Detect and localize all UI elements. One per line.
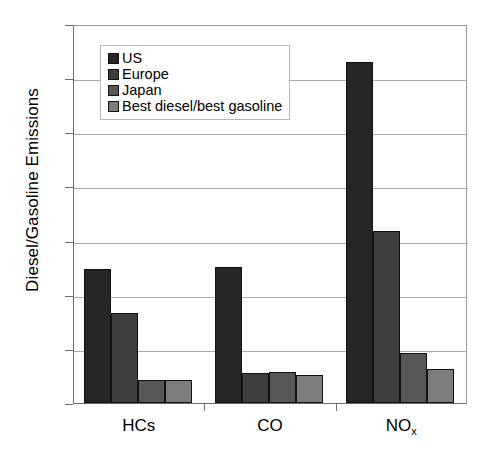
bar: [346, 62, 373, 403]
legend-item-label: Japan: [122, 83, 162, 98]
bar: [215, 267, 242, 403]
bar: [242, 373, 269, 403]
x-category-label: NOx: [336, 416, 467, 437]
x-category-label: HCs: [73, 416, 204, 436]
x-category-label: CO: [204, 416, 335, 436]
y-tick-mark: [65, 242, 73, 243]
legend-swatch-icon: [108, 85, 119, 96]
legend-item: Japan: [108, 82, 282, 98]
y-tick-mark: [65, 133, 73, 134]
legend-item-label: Europe: [122, 67, 169, 82]
bar: [269, 372, 296, 403]
y-tick-mark: [65, 350, 73, 351]
bar: [138, 380, 165, 403]
legend-swatch-icon: [108, 69, 119, 80]
legend-item-label: Best diesel/best gasoline: [122, 99, 282, 114]
bar: [111, 313, 138, 403]
x-tick-mark: [336, 404, 337, 411]
gridline: [74, 297, 466, 298]
y-tick-mark: [65, 79, 73, 80]
y-tick-mark: [65, 404, 73, 405]
legend-item: Best diesel/best gasoline: [108, 98, 282, 114]
bar: [427, 369, 454, 403]
gridline: [74, 134, 466, 135]
gridline: [74, 243, 466, 244]
y-tick-mark: [65, 25, 73, 26]
legend-swatch-icon: [108, 53, 119, 64]
gridline: [74, 188, 466, 189]
x-tick-mark: [204, 404, 205, 411]
legend: USEuropeJapanBest diesel/best gasoline: [100, 45, 290, 120]
bar: [373, 231, 400, 403]
bar-chart: Diesel/Gasoline Emissions 01234567 HCsCO…: [0, 0, 492, 456]
bar: [84, 269, 111, 403]
legend-item: US: [108, 50, 282, 66]
bar: [296, 375, 323, 403]
bar: [165, 380, 192, 403]
y-tick-mark: [65, 187, 73, 188]
legend-item-label: US: [122, 51, 142, 66]
bar: [400, 353, 427, 403]
legend-swatch-icon: [108, 101, 119, 112]
legend-item: Europe: [108, 66, 282, 82]
y-tick-mark: [65, 296, 73, 297]
y-axis-title: Diesel/Gasoline Emissions: [23, 40, 43, 340]
